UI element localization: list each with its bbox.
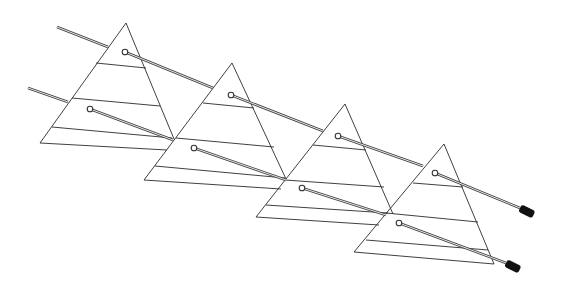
plate-base-edge — [256, 217, 379, 225]
pivot-icon — [87, 106, 93, 112]
pivot-icon — [191, 145, 197, 151]
triangle-plate — [354, 144, 494, 264]
plate-crossline — [176, 138, 274, 147]
rod-highlight — [90, 109, 173, 140]
pivot-icon — [396, 220, 402, 226]
lower-rod — [28, 88, 521, 273]
plate-right-edge — [345, 104, 393, 214]
pivot-icon — [228, 92, 234, 98]
pivot-icon — [335, 133, 341, 139]
plate-crossline — [313, 145, 366, 150]
plate-left-edge — [40, 23, 126, 143]
pivot-icon — [122, 49, 128, 55]
rod-highlight — [125, 52, 213, 88]
rod-highlight — [57, 27, 108, 47]
pivot-icon — [432, 170, 438, 176]
plate-left-edge — [144, 63, 232, 180]
diagram-canvas — [0, 0, 570, 288]
plate-base-edge — [40, 143, 167, 150]
triangle-plate — [256, 104, 393, 225]
plate-crossline — [203, 103, 254, 108]
rod-highlight — [194, 148, 286, 180]
rod-highlight — [338, 136, 423, 166]
triangular-plates — [40, 23, 494, 264]
pivot-icon — [299, 185, 305, 191]
end-cap-icon — [518, 204, 535, 218]
rod-highlight — [435, 173, 520, 208]
plate-crossline — [96, 63, 146, 68]
plate-crossline — [413, 183, 463, 187]
triangle-plate — [144, 63, 286, 189]
triangle-plate — [40, 23, 174, 150]
plate-base-edge — [354, 252, 494, 264]
rod-highlight — [28, 88, 68, 102]
plate-right-edge — [126, 23, 174, 139]
plate-right-edge — [444, 144, 494, 264]
plate-crossline — [72, 98, 160, 106]
rod-highlight — [231, 95, 323, 131]
end-cap-icon — [504, 259, 521, 273]
plate-right-edge — [232, 63, 286, 179]
rod-highlight — [302, 188, 386, 215]
plate-base-edge — [144, 180, 281, 189]
